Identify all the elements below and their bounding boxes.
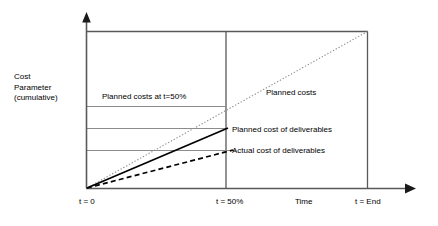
- x-axis-label-time: Time: [295, 197, 312, 208]
- x-axis-tick-label-tend: t = End: [355, 197, 381, 208]
- x-axis-tick-label-t0: t = 0: [79, 197, 95, 208]
- y-axis-title-line-2: Parameter: [14, 83, 58, 94]
- chart-plot-area: [0, 0, 438, 226]
- y-axis-title-line-3: (cumulative): [14, 93, 58, 104]
- y-axis-title: Cost Parameter (cumulative): [14, 72, 58, 104]
- annotation-planned-costs: Planned costs: [266, 88, 316, 99]
- cost-parameter-chart: Cost Parameter (cumulative) Planned cost…: [0, 0, 438, 226]
- annotation-planned-cost-of-deliverables: Planned cost of deliverables: [232, 125, 332, 136]
- annotation-actual-cost-of-deliverables: Actual cost of deliverables: [232, 146, 325, 157]
- annotation-planned-costs-at-t50: Planned costs at t=50%: [102, 92, 186, 103]
- chart-background: [0, 0, 438, 226]
- x-axis-tick-label-t50: t = 50%: [216, 197, 243, 208]
- y-axis-title-line-1: Cost: [14, 72, 58, 83]
